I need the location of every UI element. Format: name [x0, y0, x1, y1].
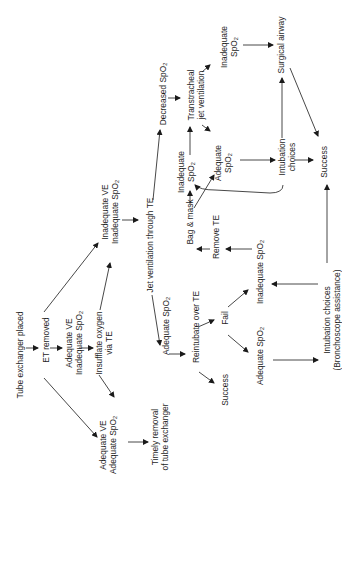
node-label-line: Jet ventilation through TE [145, 198, 155, 293]
arrow-fail-to-inadequate-spo2-after-fail [228, 290, 248, 307]
node-label-line: Surgical airway [276, 17, 286, 74]
arrow-surgical-airway-to-success-final [290, 68, 318, 136]
node-label-line: SpO2 [186, 151, 196, 193]
node-bag-mask: Bag & mask [185, 199, 195, 244]
arrow-reintubate-over-te-to-success-reintubate [199, 372, 214, 383]
node-label-line: Transtracheal [186, 70, 196, 121]
arrow-bag-mask-to-adequate-spo2-mid [194, 175, 214, 208]
node-adequate-ve-inadequate-spo2: Adequate VEInadequate SpO2 [64, 311, 84, 375]
arrow-et-removed-to-adequate-ve-adequate-spo2 [44, 378, 97, 437]
node-surgical-airway: Surgical airway [276, 17, 286, 74]
node-label-line: choices [287, 139, 297, 176]
arrow-transtracheal-jet-to-adequate-spo2-mid [202, 125, 210, 131]
arrow-et-removed-to-inadequate-ve-inadequate-spo2 [44, 243, 98, 312]
node-intubation-choices-mid: Intubationchoices [277, 139, 297, 176]
node-label-line: Inadequate VE [100, 180, 110, 244]
arrow-insufflate-oxygen-to-adequate-ve-adequate-spo2 [99, 375, 114, 397]
node-label-line: Reintubate over TE [191, 291, 201, 363]
arrow-intubation-choices-mid-to-inadequate-spo2-mid [195, 185, 283, 193]
node-success-reintubate: Success [220, 374, 230, 406]
node-fail: Fail [220, 311, 230, 325]
node-label-line: Inadequate SpO2 [110, 180, 120, 244]
node-label-line: SpO2 [223, 145, 233, 181]
node-label-line: jet ventilation [196, 70, 206, 121]
node-label-line: of tube exchanger [160, 403, 170, 470]
node-label-line: Bag & mask [185, 199, 195, 244]
node-remove-te: Remove TE [211, 215, 221, 259]
arrow-jet-ventilation-te-to-decreased-spo2 [153, 130, 160, 200]
node-label-line: Success [220, 374, 230, 406]
node-inadequate-ve-inadequate-spo2: Inadequate VEInadequate SpO2 [100, 180, 120, 244]
node-adequate-spo2-mid: AdequateSpO2 [213, 145, 233, 181]
node-inadequate-spo2-top: InadequateSpO2 [219, 26, 239, 68]
arrow-fail-to-adequate-spo2-after-fail [228, 335, 248, 352]
node-label-line: via TE [104, 311, 114, 374]
node-et-removed: ET removed [41, 317, 51, 362]
node-label-line: Inadequate [176, 151, 186, 193]
node-label-line: Fail [220, 311, 230, 325]
node-label-line: Adequate SpO2 [255, 327, 265, 385]
node-label-line: Remove TE [211, 215, 221, 259]
node-jet-ventilation-te: Jet ventilation through TE [145, 198, 155, 293]
node-label-line: Adequate VE [98, 416, 108, 474]
node-tube-exchanger-placed: Tube exchanger placed [15, 311, 25, 398]
node-label-line: Inadequate SpO2 [255, 240, 265, 304]
node-decreased-spo2: Decreased SpO2 [158, 63, 168, 126]
node-inadequate-spo2-after-fail: Inadequate SpO2 [255, 240, 265, 304]
node-label-line: Intubation choices [322, 269, 332, 370]
node-label-line: Tube exchanger placed [15, 311, 25, 398]
node-label-line: Inadequate [219, 26, 229, 68]
node-label-line: (Bronchoscope assistance) [332, 269, 342, 370]
node-label-line: Adequate SpO2 [108, 416, 118, 474]
node-label-line: Intubation [277, 139, 287, 176]
arrow-jet-ventilation-te-to-adequate-spo2-after-jet [152, 295, 160, 345]
node-inadequate-spo2-mid: InadequateSpO2 [176, 151, 196, 193]
node-insufflate-oxygen: Insufflate oxygenvia TE [94, 311, 114, 374]
node-label-line: ET removed [41, 317, 51, 362]
node-adequate-spo2-after-jet: Adequate SpO2 [161, 297, 171, 355]
node-label-line: Insufflate oxygen [94, 311, 104, 374]
node-success-final: Success [319, 146, 329, 178]
node-adequate-ve-adequate-spo2: Adequate VEAdequate SpO2 [98, 416, 118, 474]
node-timely-removal: Timely removalof tube exchanger [150, 403, 170, 470]
node-label-line: Adequate VE [64, 311, 74, 375]
node-label-line: SpO2 [229, 26, 239, 68]
node-label-line: Success [319, 146, 329, 178]
node-reintubate-over-te: Reintubate over TE [191, 291, 201, 363]
node-label-line: Inadequate SpO2 [74, 311, 84, 375]
arrow-insufflate-oxygen-to-inadequate-ve-inadequate-spo2 [100, 263, 110, 310]
node-label-line: Decreased SpO2 [158, 63, 168, 126]
node-label-line: Adequate [213, 145, 223, 181]
node-label-line: Timely removal [150, 403, 160, 470]
node-intubation-choices-bronch: Intubation choices(Bronchoscope assistan… [322, 269, 342, 370]
node-label-line: Adequate SpO2 [161, 297, 171, 355]
node-transtracheal-jet: Transtrachealjet ventilation [186, 70, 206, 121]
node-adequate-spo2-after-fail: Adequate SpO2 [255, 327, 265, 385]
